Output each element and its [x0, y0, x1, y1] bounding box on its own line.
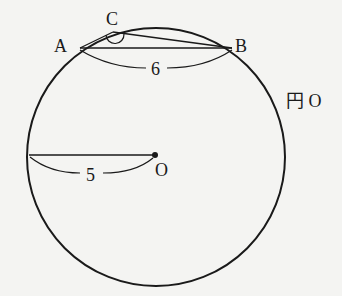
circle-diagram: A C B O 6 5 円 O	[0, 0, 342, 296]
point-label-c: C	[106, 9, 118, 29]
center-point-o	[152, 152, 158, 158]
radius-length-brace-right	[103, 158, 153, 173]
point-label-a: A	[54, 36, 67, 56]
ab-length-brace-right	[167, 50, 232, 68]
ab-length-label: 6	[151, 59, 160, 79]
segment-cb	[113, 32, 232, 48]
ab-length-brace-left	[80, 50, 146, 68]
radius-length-label: 5	[86, 165, 95, 185]
circle-label: 円 O	[286, 91, 322, 111]
point-label-b: B	[235, 36, 247, 56]
radius-length-brace-left	[30, 157, 80, 173]
point-label-o: O	[155, 160, 168, 180]
